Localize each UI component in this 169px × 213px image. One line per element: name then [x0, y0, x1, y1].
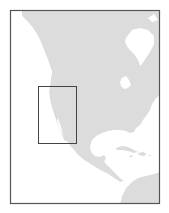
puerto-rico — [149, 155, 151, 156]
locator-map — [0, 0, 169, 213]
